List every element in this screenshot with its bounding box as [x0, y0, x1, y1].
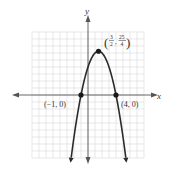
vertex-label-open-paren: ( — [104, 35, 108, 50]
vertex-label-close-paren: ) — [126, 35, 130, 50]
vertex-label-x-den: 2 — [110, 41, 113, 47]
vertex-label: ( 3 2 , 25 4 ) — [104, 34, 130, 50]
vertex-label-y-den: 4 — [121, 41, 124, 47]
point-label-left-intercept: (−1, 0) — [44, 100, 66, 109]
point-label-right-intercept: (4, 0) — [121, 100, 139, 109]
x-axis-left-arrow — [12, 93, 19, 98]
x-intercept-point — [78, 92, 83, 97]
points-group — [78, 49, 118, 98]
curve-group — [69, 51, 129, 162]
parabola-plot: x y (−1, 0) (4, 0) ( 3 2 , 25 4 ) — [0, 0, 170, 174]
y-axis-up-arrow — [86, 15, 91, 22]
vertex-label-x-num: 3 — [110, 34, 113, 40]
curve-left-arrow — [69, 157, 74, 162]
y-axis-down-arrow — [86, 157, 91, 164]
x-axis-label: x — [156, 91, 161, 101]
curve-right-arrow — [123, 157, 128, 162]
vertex-label-comma: , — [115, 38, 117, 46]
axes — [12, 15, 158, 164]
vertex-label-y-num: 25 — [119, 34, 125, 40]
y-axis-label: y — [84, 6, 89, 16]
x-intercept-point — [113, 92, 118, 97]
vertex-point — [96, 49, 101, 54]
